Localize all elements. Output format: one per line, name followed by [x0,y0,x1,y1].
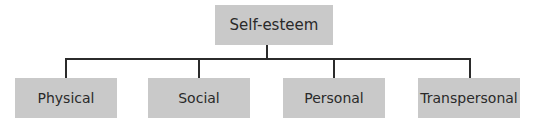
connector-stem-personal [333,58,335,78]
connector-horizontal-bar [65,58,471,60]
node-label: Physical [38,90,95,106]
connector-stem-social [198,58,200,78]
node-label: Social [178,90,220,106]
node-self-esteem: Self-esteem [215,5,333,45]
node-transpersonal: Transpersonal [418,78,520,118]
connector-stem-transpersonal [469,58,471,78]
node-physical: Physical [15,78,117,118]
node-label: Self-esteem [230,16,319,34]
node-label: Personal [304,90,364,106]
node-label: Transpersonal [420,90,517,106]
node-personal: Personal [283,78,385,118]
node-social: Social [148,78,250,118]
connector-stem-physical [65,58,67,78]
